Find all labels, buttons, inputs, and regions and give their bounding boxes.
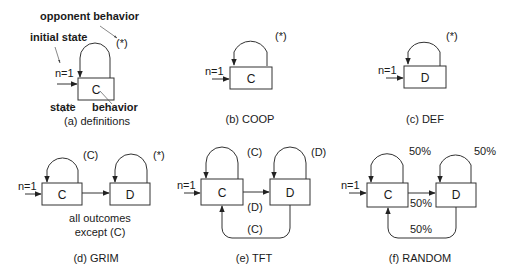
- self-loop-label: (*): [275, 30, 287, 42]
- initial-label: n=1: [205, 65, 224, 77]
- annotation-initial-state: initial state: [30, 31, 87, 43]
- self-loop-label: (*): [116, 37, 128, 49]
- self-loop-arrow: [440, 155, 471, 183]
- panel-coop: (*) C n=1 (b) COOP: [205, 30, 287, 125]
- initial-label: n=1: [341, 179, 360, 191]
- state-label: D: [452, 188, 461, 202]
- transition-label: all outcomes: [69, 212, 131, 224]
- self-loop-label: (*): [153, 149, 165, 161]
- self-loop-label: 50%: [474, 145, 496, 157]
- self-loop-label: 50%: [409, 145, 431, 157]
- self-loop-arrow: [408, 42, 440, 66]
- panel-caption: (c) DEF: [406, 113, 444, 125]
- panel-random: 50% 50% C D 50% 50% n=1 (f) RANDOM: [341, 145, 496, 264]
- panel-caption: (d) GRIM: [73, 252, 118, 264]
- self-loop-arrow: [274, 147, 306, 179]
- state-label: C: [247, 72, 256, 86]
- state-label: D: [126, 188, 135, 202]
- pointer-arrow-icon: [55, 47, 60, 63]
- self-loop-arrow: [206, 147, 238, 179]
- panel-caption: (a) definitions: [64, 115, 131, 127]
- self-loop-arrow: [371, 154, 403, 183]
- self-loop-label: (*): [446, 30, 458, 42]
- forward-label: 50%: [410, 197, 432, 209]
- state-label: D: [286, 186, 295, 200]
- initial-label: n=1: [177, 179, 196, 191]
- initial-label: n=1: [378, 64, 397, 76]
- self-loop-arrow: [115, 154, 147, 183]
- state-label: C: [384, 188, 393, 202]
- back-label: 50%: [410, 223, 432, 235]
- pointer-arrow-icon: [100, 26, 117, 38]
- state-label: C: [58, 188, 67, 202]
- state-label: C: [218, 186, 227, 200]
- transition-label: except (C): [75, 226, 126, 238]
- self-loop-label: (C): [83, 149, 98, 161]
- panel-grim: (C) (*) C D n=1 all outcomes except (C) …: [18, 149, 165, 264]
- panel-tft: (C) (D) C D (D) (C) n=1 (e) TFT: [177, 146, 326, 264]
- state-label: D: [421, 71, 430, 85]
- state-label: C: [92, 83, 101, 97]
- panel-def: (*) D n=1 (c) DEF: [378, 30, 458, 125]
- annotation-behavior: behavior: [92, 101, 139, 113]
- panel-caption: (e) TFT: [236, 252, 273, 264]
- self-loop-arrow: [80, 43, 110, 78]
- annotation-opponent-behavior: opponent behavior: [40, 10, 140, 22]
- strategy-diagram: opponent behavior (*) initial state C n=…: [0, 0, 512, 275]
- self-loop-label: (D): [311, 146, 326, 158]
- self-loop-label: (C): [247, 146, 262, 158]
- back-label: (C): [247, 223, 262, 235]
- forward-label: (D): [247, 201, 262, 213]
- initial-label: n=1: [18, 180, 37, 192]
- self-loop-arrow: [47, 158, 78, 183]
- annotation-state: state: [50, 101, 76, 113]
- self-loop-arrow: [234, 41, 267, 66]
- initial-label: n=1: [55, 67, 74, 79]
- panel-caption: (f) RANDOM: [389, 252, 451, 264]
- panel-definitions: opponent behavior (*) initial state C n=…: [30, 10, 140, 127]
- panel-caption: (b) COOP: [226, 113, 275, 125]
